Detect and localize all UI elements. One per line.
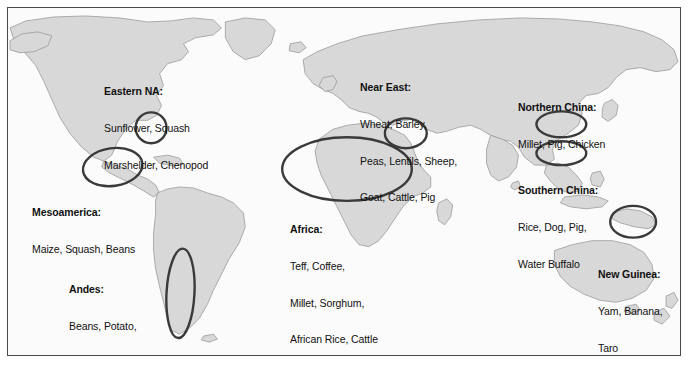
region-title-africa: Africa:	[290, 223, 378, 235]
region-line-andes-0: Beans, Potato,	[69, 320, 136, 332]
region-label-eastern-na: Eastern NA: Sunflower, Squash Marshelder…	[104, 61, 208, 195]
region-line-southern-china-1: Water Buffalo	[518, 258, 598, 270]
region-line-near-east-0: Wheat, Barley,	[360, 118, 457, 130]
region-line-northern-china-0: Millet, Pig, Chicken	[518, 138, 605, 150]
region-line-eastern-na-1: Marshelder, Chenopod	[104, 159, 208, 171]
region-label-southern-china: Southern China: Rice, Dog, Pig, Water Bu…	[518, 160, 598, 294]
region-line-africa-1: Millet, Sorghum,	[290, 297, 378, 309]
region-title-andes: Andes:	[69, 283, 136, 295]
region-line-near-east-1: Peas, Lentils, Sheep,	[360, 155, 457, 167]
region-label-new-guinea: New Guinea: Yam, Banana, Taro	[598, 244, 663, 356]
world-map-panel: Eastern NA: Sunflower, Squash Marshelder…	[7, 7, 681, 356]
region-line-southern-china-0: Rice, Dog, Pig,	[518, 221, 598, 233]
region-title-new-guinea: New Guinea:	[598, 268, 663, 280]
region-label-andes: Andes: Beans, Potato, Llama, Alpaca, Gui…	[69, 259, 136, 356]
region-line-eastern-na-0: Sunflower, Squash	[104, 122, 208, 134]
region-line-new-guinea-0: Yam, Banana,	[598, 305, 663, 317]
region-title-northern-china: Northern China:	[518, 101, 605, 113]
region-label-africa: Africa: Teff, Coffee, Millet, Sorghum, A…	[290, 199, 378, 356]
region-title-near-east: Near East:	[360, 81, 457, 93]
region-title-mesoamerica: Mesoamerica:	[32, 206, 135, 218]
region-line-africa-0: Teff, Coffee,	[290, 260, 378, 272]
region-line-new-guinea-1: Taro	[598, 342, 663, 354]
region-line-africa-2: African Rice, Cattle	[290, 333, 378, 345]
figure-root: Eastern NA: Sunflower, Squash Marshelder…	[0, 0, 689, 377]
region-line-mesoamerica-0: Maize, Squash, Beans	[32, 243, 135, 255]
region-title-southern-china: Southern China:	[518, 184, 598, 196]
region-title-eastern-na: Eastern NA:	[104, 85, 208, 97]
